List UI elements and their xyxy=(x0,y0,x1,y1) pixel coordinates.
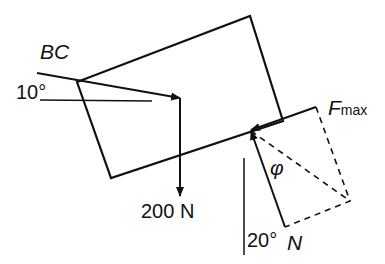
fmax-main: F xyxy=(328,96,341,119)
fmax-arrow xyxy=(251,107,316,130)
fmax-subscript: max xyxy=(341,102,367,118)
resultant-dashed-line xyxy=(251,131,350,201)
horizontal-reference-line xyxy=(40,100,152,101)
normal-force-label: N xyxy=(287,232,302,253)
phi-label: φ xyxy=(270,157,284,178)
dashed-parallelogram xyxy=(285,107,350,227)
angle-20-label: 20° xyxy=(247,230,277,250)
fmax-label: Fmax xyxy=(328,97,367,118)
bc-label: BC xyxy=(40,41,69,62)
bc-force-arrow xyxy=(37,73,180,98)
angle-10-label: 10° xyxy=(16,82,46,102)
weight-label: 200 N xyxy=(141,201,194,221)
free-body-diagram: BC 10° 200 N Fmax φ 20° N xyxy=(0,0,385,264)
normal-force-arrow xyxy=(251,131,285,227)
